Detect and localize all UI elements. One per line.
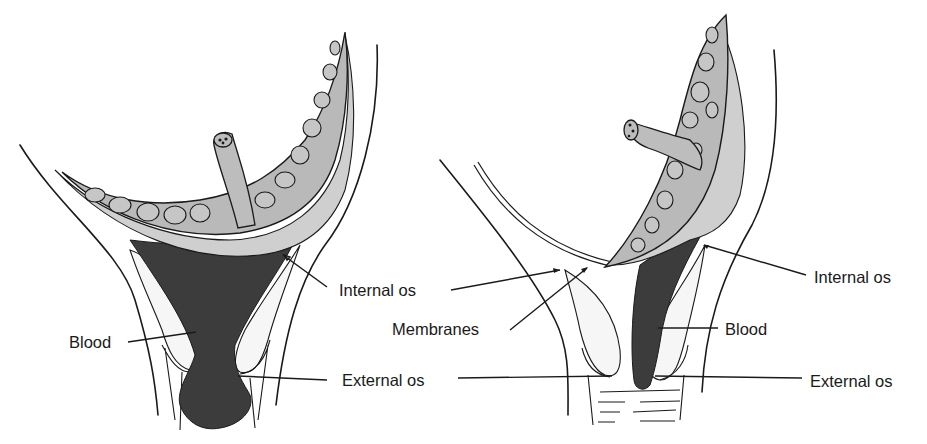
label-membranes: Membranes — [392, 320, 479, 338]
right-leader-lines — [451, 245, 806, 378]
umbilical-cord-cut-end — [214, 133, 232, 147]
label-blood: Blood — [69, 333, 111, 351]
uterine-wall-left — [20, 145, 158, 415]
label-internal-os: Internal os — [814, 268, 891, 286]
label-external-os: External os — [342, 371, 425, 389]
retroplacental-blood-clot — [130, 230, 300, 429]
label-blood: Blood — [725, 320, 767, 338]
left-panel: Internal os Blood External os — [20, 32, 425, 430]
label-internal-os: Internal os — [339, 281, 416, 299]
cervix-left-lip — [565, 270, 620, 376]
placental-abruption-diagram: Internal os Blood External os — [0, 0, 927, 444]
right-panel: Internal os Membranes Internal os Blood … — [339, 15, 893, 425]
fetal-membranes — [474, 165, 610, 266]
umbilical-cord-cut-end — [624, 120, 638, 140]
vaginal-canal-lines — [598, 390, 680, 422]
label-external-os: External os — [810, 372, 893, 390]
